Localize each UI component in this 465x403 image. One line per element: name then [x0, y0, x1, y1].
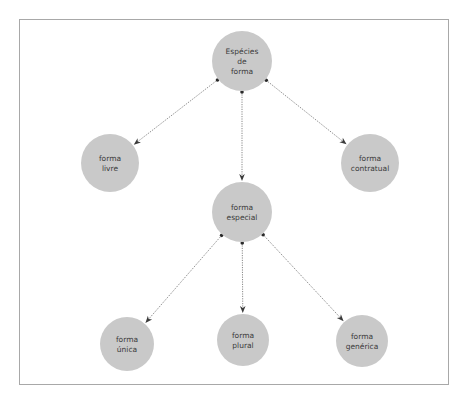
node-label: especial: [227, 213, 258, 222]
node-label: forma: [351, 332, 373, 341]
node-label: genérica: [346, 342, 379, 351]
edge-especial-to-plural: [240, 241, 246, 313]
node-unica: formaúnica: [100, 317, 154, 371]
arrowhead-icon: [339, 138, 346, 145]
node-label: única: [117, 345, 137, 354]
node-livre: formalivre: [81, 134, 139, 192]
arrowhead-icon: [337, 314, 344, 321]
edge-especial-to-generica: [261, 233, 343, 321]
arrowhead-icon: [240, 306, 246, 313]
arrowhead-icon: [134, 138, 141, 144]
node-label: Espécies: [226, 47, 259, 56]
edge-especial-to-unica: [145, 234, 223, 323]
node-label: de: [237, 57, 247, 66]
node-label: plural: [232, 341, 253, 350]
node-label: forma: [116, 335, 138, 344]
node-especial: formaespecial: [212, 182, 272, 242]
node-label: forma: [231, 67, 253, 76]
arrowhead-icon: [239, 174, 245, 181]
node-label: forma: [99, 154, 121, 163]
node-contratual: formacontratual: [341, 134, 399, 192]
edge-line: [266, 80, 343, 141]
edge-line: [242, 243, 243, 309]
arrowhead-icon: [145, 316, 152, 323]
edge-especies-to-especial: [239, 90, 245, 181]
edge-especies-to-livre: [134, 78, 220, 145]
node-label: livre: [102, 164, 119, 173]
node-label: contratual: [351, 164, 389, 173]
edge-line: [263, 235, 341, 319]
node-plural: formaplural: [217, 314, 269, 366]
node-label: forma: [231, 203, 253, 212]
node-generica: formagenérica: [336, 315, 388, 367]
node-especies: Espéciesdeforma: [212, 31, 272, 91]
edge-especies-to-contratual: [264, 79, 346, 145]
node-label: forma: [359, 154, 381, 163]
edge-line: [137, 80, 218, 142]
hierarchy-diagram: Espéciesdeformaformalivreformacontratual…: [0, 0, 465, 403]
node-label: forma: [232, 331, 254, 340]
nodes-layer: Espéciesdeformaformalivreformacontratual…: [81, 31, 399, 371]
edge-line: [148, 235, 222, 319]
